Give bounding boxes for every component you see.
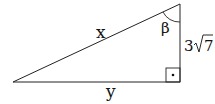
right-leg-radicand: 7	[204, 37, 214, 55]
right-leg-coefficient: 3	[184, 37, 194, 55]
bottom-leg-label: y	[105, 81, 116, 101]
triangle-diagram: x y β 3 7	[0, 0, 215, 104]
angle-beta-label: β	[161, 19, 170, 37]
hypotenuse-label: x	[96, 22, 106, 42]
triangle	[13, 4, 180, 82]
right-angle-dot	[172, 74, 175, 77]
